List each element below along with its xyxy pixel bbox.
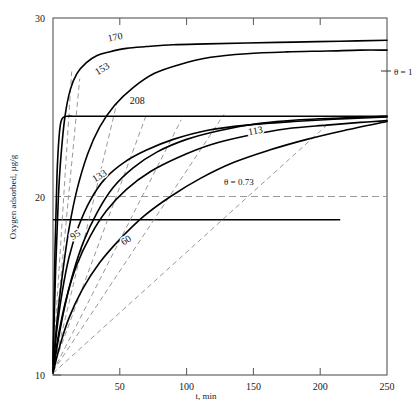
data-curves [53,40,387,373]
x-tick-label-50: 50 [115,381,125,392]
curve-113 [53,116,387,371]
theta-073-label: θ = 0.73 [224,177,254,187]
x-axis-title: t, min [195,391,217,401]
curve-label-170: 170 [107,30,124,44]
x-tick-label-100: 100 [179,381,194,392]
chart-canvas: 50100150200250 102030 170170153153208208… [0,0,420,407]
curve-label-95: 95 [68,227,82,242]
curve-label-60: 60 [119,233,133,248]
x-tick-label-250: 250 [380,381,395,392]
x-tick-label-150: 150 [246,381,261,392]
curve-153 [53,50,387,370]
tangent-113 [53,114,224,371]
theta-073-annotation: θ = 0.73 [224,177,254,187]
theta-1-annotation: θ = 1 [381,67,412,77]
figure-oxygen-adsorption-chart: 50100150200250 102030 170170153153208208… [0,0,420,407]
x-tick-label-200: 200 [313,381,328,392]
curve-label-153: 153 [93,60,112,77]
theta-1-label: θ = 1 [394,67,412,77]
x-axis-ticks: 50100150200250 [115,18,395,392]
y-tick-label-20: 20 [35,192,45,203]
y-tick-label-30: 30 [35,13,45,24]
y-tick-label-10: 10 [35,370,45,381]
curve-label-208: 208 [130,95,145,106]
curve-label-133: 133 [90,167,109,184]
curve-133 [53,117,387,368]
curve-208 [53,116,387,361]
y-axis-title: Oxygen adsorbed, µg/g [8,154,18,239]
tangent-60 [53,125,327,373]
curve-label-113: 113 [247,124,263,137]
curve-95 [53,121,387,372]
